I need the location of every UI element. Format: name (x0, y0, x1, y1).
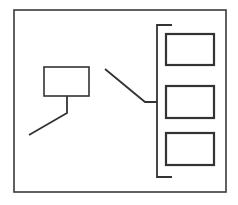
left-rectangle (44, 67, 89, 96)
left-rectangle-leader (29, 96, 67, 135)
right-rectangle-bottom (166, 133, 214, 165)
right-rectangle-top (166, 34, 214, 65)
diagram-canvas (0, 0, 238, 205)
bracket-pointer (105, 69, 157, 102)
diagram-svg (0, 0, 238, 205)
right-rectangle-middle (166, 86, 214, 118)
